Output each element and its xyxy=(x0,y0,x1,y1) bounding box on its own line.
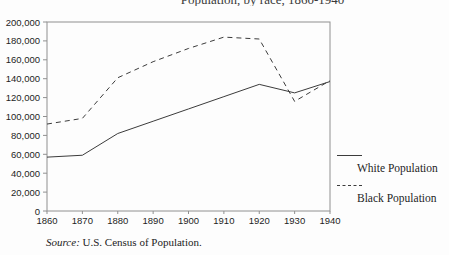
y-tick-label: 120,000 xyxy=(6,92,40,103)
legend-entry-black: Black Population xyxy=(337,185,447,205)
x-tick-label: 1860 xyxy=(36,215,57,226)
y-tick-label: 140,000 xyxy=(6,73,40,84)
y-tick-label: 20,000 xyxy=(11,187,40,198)
y-tick-label: 100,000 xyxy=(6,111,40,122)
legend-label-white: White Population xyxy=(337,163,447,175)
y-tick-label: 180,000 xyxy=(6,35,40,46)
source-prefix: Source: xyxy=(46,236,80,248)
solid-line-sample-icon xyxy=(337,155,362,156)
legend-label-black: Black Population xyxy=(337,193,447,205)
x-tick-label: 1900 xyxy=(178,215,199,226)
x-tick-label: 1870 xyxy=(72,215,93,226)
y-tick-label: 60,000 xyxy=(11,149,40,160)
x-tick-label: 1940 xyxy=(319,215,340,226)
source-text: U.S. Census of Population. xyxy=(80,236,202,248)
y-tick-label: 200,000 xyxy=(6,17,40,28)
source-note: Source: U.S. Census of Population. xyxy=(46,236,202,248)
population-line-chart-figure: Population, by race, 1860-1940 020,00040… xyxy=(0,0,449,255)
chart-legend: White Population Black Population xyxy=(337,155,447,214)
series-line-white-population xyxy=(47,82,330,158)
y-tick-label: 40,000 xyxy=(11,168,40,179)
series-line-black-population xyxy=(47,37,330,124)
line-chart-plot: 020,00040,00060,00080,000100,000120,0001… xyxy=(0,0,449,255)
y-tick-label: 80,000 xyxy=(11,130,40,141)
legend-entry-white: White Population xyxy=(337,155,447,175)
x-tick-label: 1890 xyxy=(143,215,164,226)
y-tick-label: 160,000 xyxy=(6,54,40,65)
plot-frame xyxy=(47,22,330,211)
x-tick-label: 1930 xyxy=(284,215,305,226)
x-tick-label: 1920 xyxy=(249,215,270,226)
x-tick-label: 1880 xyxy=(107,215,128,226)
x-tick-label: 1910 xyxy=(213,215,234,226)
dashed-line-sample-icon xyxy=(337,185,362,186)
